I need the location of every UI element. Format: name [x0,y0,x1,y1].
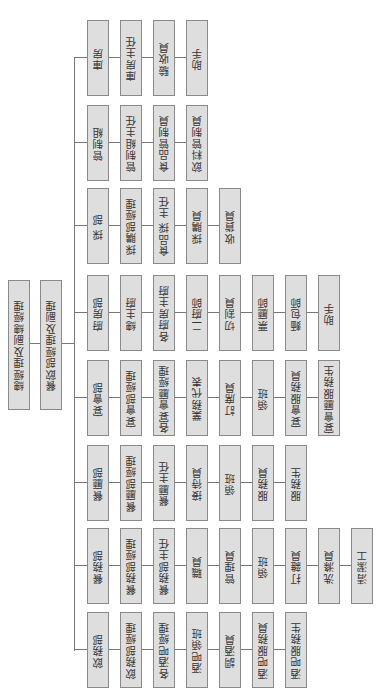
department-box: 餐務部 [87,528,109,604]
department-box: 廚房部 [87,275,109,351]
position-box: 宴會部經理 [120,360,142,436]
position-label: 酒吧服務生 [286,621,306,679]
connector-line [241,397,252,398]
position-label: 各廚房主廚 [154,284,174,342]
position-box: 洗滌員 [318,528,340,604]
position-box: 管理員 [219,528,241,604]
position-box: 打雜員 [285,528,307,604]
connector-line [142,57,153,58]
connector-line [241,565,252,566]
position-label: 調酒員 [220,633,240,668]
position-box: 接待員 [186,445,208,521]
connector-line [274,482,285,483]
connector-line [241,312,252,313]
connector-line [274,565,285,566]
department-box: 庫房 [87,20,109,96]
root-label: 餐飲部經理及副理 [41,299,61,391]
connector-line [109,225,120,226]
connector-line [62,343,74,344]
position-box: 酒吧服務員 [252,612,274,688]
position-box: 食品採 主任 [153,188,175,264]
position-label: 管制組主任 [121,114,141,172]
position-label: 收貨員 [220,209,240,244]
connector-line [208,225,219,226]
branch-line [74,312,87,313]
position-label: 飲料管制員 [187,114,207,172]
department-label: 餐廳部 [88,466,108,501]
position-box: 業務代表 [186,360,208,436]
position-label: 飲務部經理 [121,621,141,679]
position-label: 業務代表 [187,375,207,421]
position-label: 食品管制員 [154,114,174,172]
position-label: 管理員 [220,549,240,584]
position-box: 票廳師 [252,275,274,351]
connector-line [142,649,153,650]
connector-line [142,142,153,143]
connector-line [109,57,120,58]
position-box: 職員 [186,528,208,604]
position-box: 訂席員 [219,360,241,436]
connector-line [30,343,40,344]
connector-line [109,482,120,483]
position-label: 酒吧領班 [187,627,207,673]
department-label: 庫房 [88,47,108,70]
position-box: 飲務部經理 [120,612,142,688]
position-box: 餐務部主任 [153,528,175,604]
connector-line [274,649,285,650]
position-box: 調酒員 [219,612,241,688]
position-box: 酒吧領班 [186,612,208,688]
connector-line [307,565,318,566]
position-box: 酒吧服務生 [285,612,307,688]
connector-line [307,312,318,313]
department-box: 管制組 [87,105,109,181]
position-label: 庫房主任 [121,35,141,81]
position-box: 庫房主任 [120,20,142,96]
department-label: 飲務部 [88,633,108,668]
position-label: 餐務部經理 [121,537,141,595]
position-box: 餐廳部經理 [120,445,142,521]
position-box: 領班 [219,445,241,521]
department-box: 採 部 [87,188,109,264]
position-box: 各廚房主廚 [153,275,175,351]
position-label: 接待員 [187,466,207,501]
connector-line [175,225,186,226]
position-label: 採購員 [187,209,207,244]
connector-line [274,397,285,398]
position-label: 職員 [187,555,207,578]
position-label: 驗收員 [154,41,174,76]
connector-line [109,142,120,143]
connector-line [175,142,186,143]
spine-line [74,57,75,651]
connector-line [175,565,186,566]
connector-line [208,397,219,398]
position-box: 各酒吧經理 [153,612,175,688]
position-label: 助手 [319,302,339,325]
position-label: 總主廚 [121,296,141,331]
position-label: 麵包師 [286,296,306,331]
position-label: 各酒吧經理 [154,621,174,679]
position-box: 服務生 [285,445,307,521]
position-label: 宴會服務員 [286,369,306,427]
position-label: 訂席員 [220,381,240,416]
position-label: 領班 [220,472,240,495]
position-box: 管制組主任 [120,105,142,181]
connector-line [208,482,219,483]
connector-line [142,225,153,226]
position-box: 宴會服務員 [285,360,307,436]
connector-line [307,397,318,398]
position-label: 服務生 [286,466,306,501]
connector-line [340,565,351,566]
connector-line [109,397,120,398]
branch-line [74,225,87,226]
department-box: 餐廳部 [87,445,109,521]
connector-line [241,649,252,650]
branch-line [74,397,87,398]
connector-line [208,312,219,313]
root-box-general-manager: 總經理及副總經理 [8,280,30,410]
position-box: 切割員 [219,275,241,351]
connector-line [175,312,186,313]
position-label: 餐廳主任 [154,460,174,506]
connector-line [208,565,219,566]
position-label: 採購部經理 [121,197,141,255]
position-box: 領班 [252,528,274,604]
